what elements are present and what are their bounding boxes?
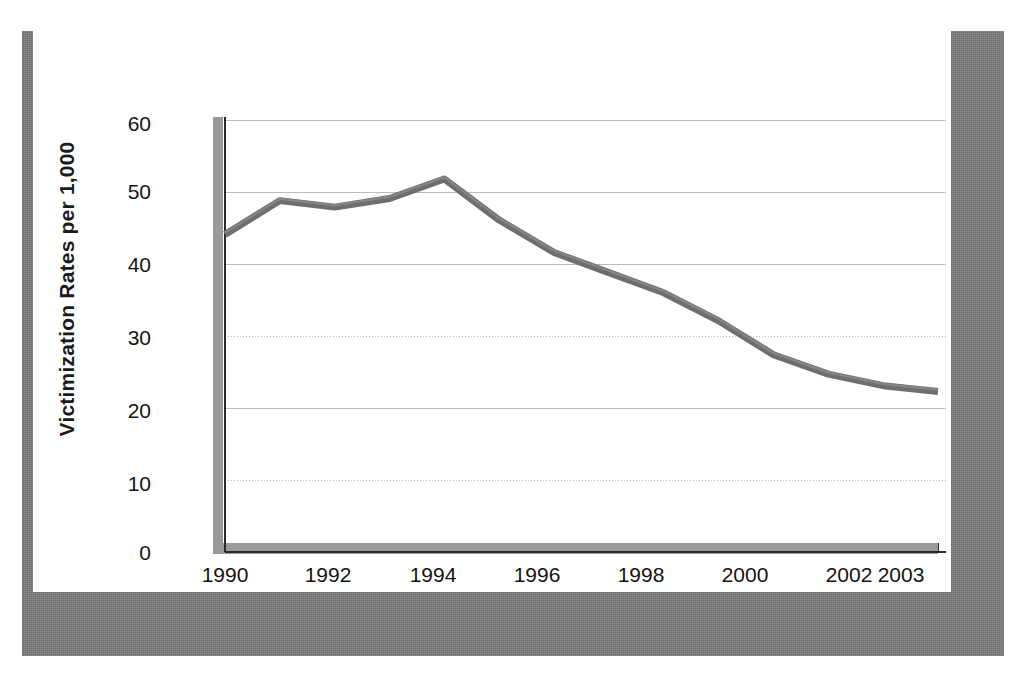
line-chart: Victimization Rates per 1,000 60 50 40 3…	[33, 31, 951, 592]
victimization-rate-line	[225, 179, 938, 391]
gridlines	[225, 120, 946, 480]
scan-edge-artifact: · · ·	[0, 0, 1028, 10]
data-line-series	[225, 177, 938, 391]
figure-canvas: Victimization Rates per 1,000 60 50 40 3…	[33, 31, 951, 592]
plot-svg	[33, 31, 951, 592]
